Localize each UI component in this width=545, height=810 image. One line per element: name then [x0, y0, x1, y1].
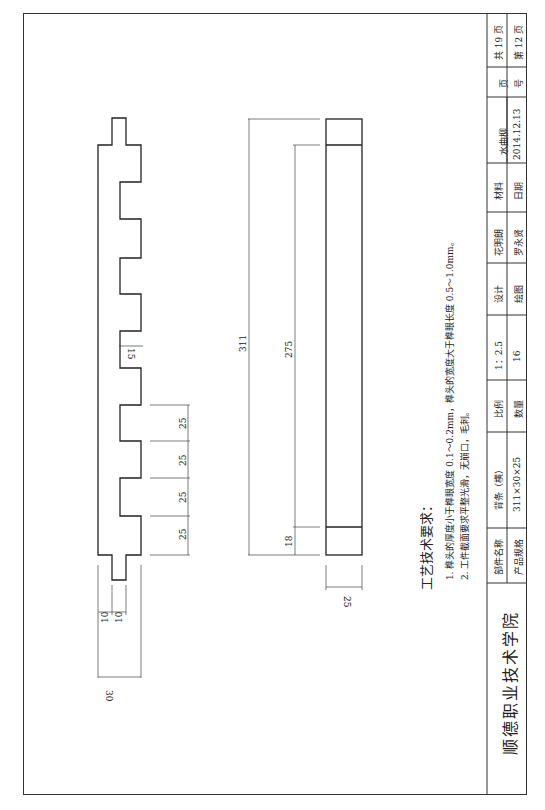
label-date: 日期	[512, 182, 525, 200]
date-value: 2014.12.13	[512, 108, 522, 160]
dim-bar-thickness: 25	[342, 596, 352, 607]
page-total: 共 19 页	[492, 25, 505, 60]
dim-tenon-a: 10	[100, 612, 110, 623]
quantity-value: 16	[512, 351, 522, 362]
label-material: 材料	[492, 182, 505, 200]
dim-tenon-b: 10	[114, 612, 124, 623]
designer-name: 花明朗	[492, 229, 505, 256]
dim-bar-length: 311	[238, 335, 248, 352]
part-name: 背条（横）	[492, 465, 505, 510]
dim-bar-end: 18	[284, 536, 294, 547]
drawer-name: 罗永贤	[512, 229, 525, 256]
label-drawn: 绘图	[512, 285, 525, 303]
dim-slot-depth: 15	[126, 348, 136, 359]
label-part-name: 部件名称	[492, 539, 505, 575]
requirement-1: 1. 榫头的厚度小于榫眼宽度 0.1～0.2mm，榫头的宽度大于榫眼长度 0.5…	[443, 237, 456, 580]
label-scale: 比例	[492, 400, 505, 418]
dim-slot-spacing-1: 25	[178, 529, 188, 540]
dim-slot-spacing-4: 25	[178, 418, 188, 429]
spec-value: 311×30×25	[512, 457, 522, 512]
requirements-heading: 工艺技术要求：	[416, 499, 435, 590]
label-page: 页	[497, 79, 510, 88]
page-current: 第 12 页	[512, 25, 525, 60]
dim-slot-spacing-2: 25	[178, 492, 188, 503]
scale-value: 1：2.5	[492, 341, 505, 370]
dim-bar-inner-length: 275	[284, 341, 294, 358]
dim-slot-spacing-3: 25	[178, 455, 188, 466]
label-number: 号	[512, 79, 525, 88]
label-quantity: 数量	[512, 400, 525, 418]
label-design: 设计	[492, 285, 505, 303]
material-value: 水曲柳	[497, 128, 510, 155]
school-name: 顺德职业技术学院	[497, 611, 521, 755]
bar-outline	[326, 119, 362, 555]
requirement-2: 2. 工件截面要求平整光滑，无崩口，毛刺。	[458, 407, 471, 580]
label-spec: 产品规格	[512, 539, 525, 575]
dim-overall-width: 30	[104, 690, 114, 701]
drawing-canvas	[0, 0, 545, 810]
